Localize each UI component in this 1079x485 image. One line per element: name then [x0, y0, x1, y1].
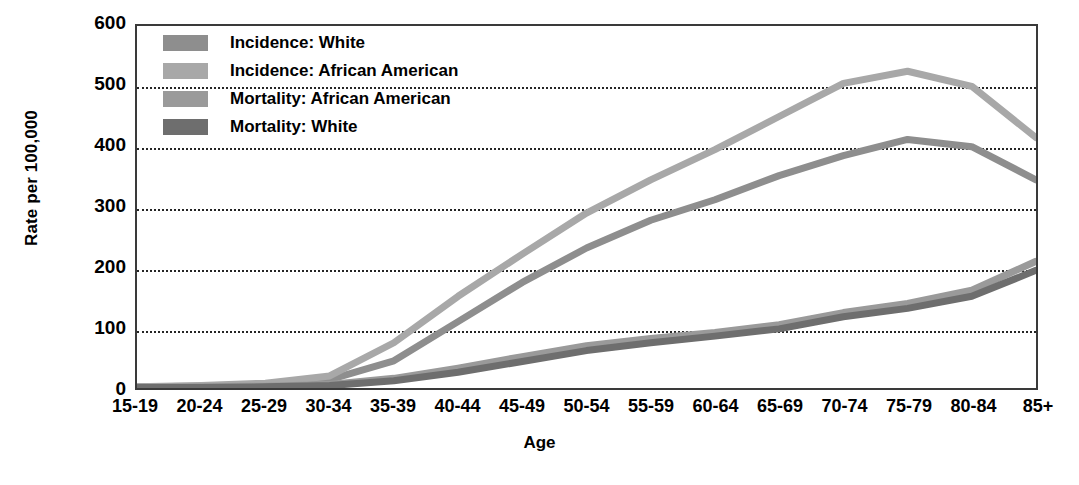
y-tick-label: 200 [48, 257, 126, 276]
x-tick-label: 85+ [993, 396, 1079, 417]
chart-legend: Incidence: WhiteIncidence: African Ameri… [163, 30, 493, 142]
y-tick-label: 500 [48, 74, 126, 93]
y-axis-title: Rate per 100,000 [22, 28, 42, 328]
legend-item: Incidence: African American [163, 58, 493, 83]
legend-label: Mortality: African American [230, 89, 451, 109]
series-line [137, 261, 1036, 387]
legend-label: Mortality: White [230, 117, 358, 137]
legend-label: Incidence: African American [230, 61, 458, 81]
y-tick-label: 400 [48, 135, 126, 154]
legend-label: Incidence: White [230, 33, 365, 53]
y-tick-label: 600 [48, 13, 126, 32]
legend-swatch [163, 35, 208, 51]
series-line [137, 270, 1036, 387]
legend-item: Mortality: African American [163, 86, 493, 111]
legend-item: Mortality: White [163, 114, 493, 139]
legend-swatch [163, 91, 208, 107]
legend-swatch [163, 119, 208, 135]
y-tick-label: 300 [48, 196, 126, 215]
y-tick-label: 100 [48, 318, 126, 337]
legend-item: Incidence: White [163, 30, 493, 55]
chart-figure: Rate per 100,000 Age 0100200300400500600… [0, 0, 1079, 485]
x-axis-title: Age [0, 433, 1079, 453]
legend-swatch [163, 63, 208, 79]
